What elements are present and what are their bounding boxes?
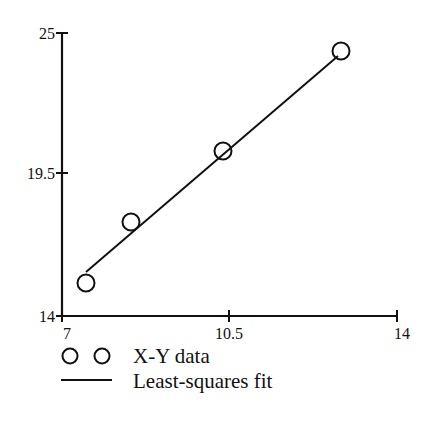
x-tick-label-7: 7 [63, 325, 71, 342]
data-point [123, 214, 140, 231]
legend-label-xy-data: X-Y data [133, 344, 210, 368]
data-point [333, 43, 350, 60]
legend-circle-icon [63, 349, 110, 364]
scatter-plot-with-fit: 25 19.5 14 7 10.5 14 X-Y data Least-squa… [0, 0, 428, 424]
y-tick-label-19-5: 19.5 [27, 165, 55, 182]
x-tick-label-14: 14 [394, 325, 410, 342]
legend-label-fit: Least-squares fit [133, 369, 273, 393]
x-axis [62, 310, 397, 322]
least-squares-fit-line [86, 56, 338, 272]
legend: X-Y data Least-squares fit [61, 344, 273, 393]
y-tick-label-25: 25 [39, 25, 55, 42]
y-axis [56, 33, 68, 316]
y-tick-label-14: 14 [39, 308, 55, 325]
data-point [215, 143, 232, 160]
x-tick-label-10-5: 10.5 [215, 325, 243, 342]
data-point [78, 275, 95, 292]
